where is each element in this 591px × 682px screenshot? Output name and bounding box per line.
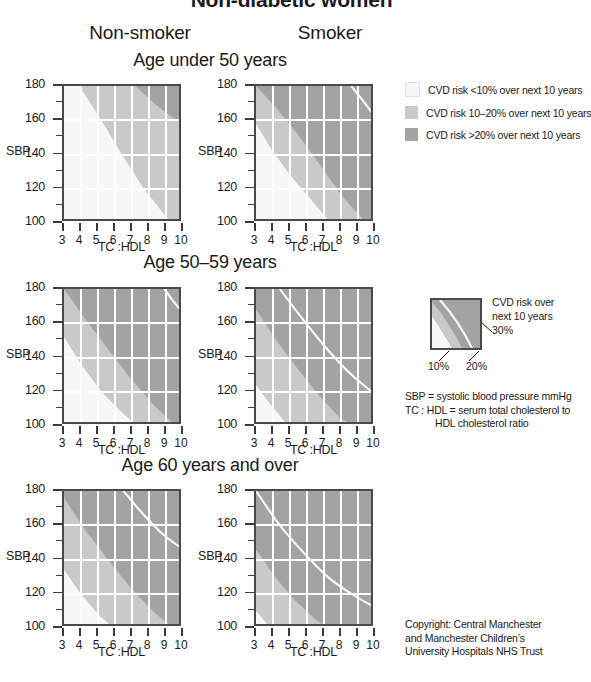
- y-tick-160: [53, 523, 62, 525]
- y-tick-140: [53, 558, 62, 560]
- y-tick-label-160: 160: [25, 111, 45, 125]
- x-axis-title-smoker-under50: TC :HDL: [254, 240, 373, 254]
- legend-swatch-mid: [405, 106, 418, 119]
- column-header-smoker: Smoker: [235, 22, 425, 44]
- x-tick-6: [113, 628, 115, 636]
- risk-legend: CVD risk <10% over next 10 years CVD ris…: [405, 82, 583, 150]
- x-axis-title-smoker-60plus: TC :HDL: [254, 645, 373, 659]
- y-tick-120: [245, 390, 254, 392]
- x-tick-5: [288, 223, 290, 231]
- mini-key-line1: CVD risk over: [492, 296, 554, 310]
- x-tick-7: [130, 426, 132, 434]
- y-tick-150: [56, 338, 62, 339]
- y-tick-110: [248, 407, 254, 408]
- chart-smoker-50-59: 100120140160180SBP345678910TC :HDL: [200, 283, 390, 458]
- y-tick-110: [248, 609, 254, 610]
- x-tick-7: [130, 223, 132, 231]
- gridline-v-8: [148, 86, 150, 219]
- y-tick-180: [53, 84, 62, 86]
- contour-30-percent: [256, 491, 373, 626]
- y-tick-130: [248, 170, 254, 171]
- x-tick-4: [271, 223, 273, 231]
- x-tick-9: [164, 628, 166, 636]
- y-tick-label-160: 160: [25, 314, 45, 328]
- plot-area-smoker-50-59: [254, 287, 373, 424]
- x-tick-8: [339, 223, 341, 231]
- definition-tchdl: TC : HDL = serum total cholesterol to: [405, 404, 583, 418]
- x-tick-4: [271, 628, 273, 636]
- y-tick-110: [248, 204, 254, 205]
- x-axis-nonsmoker-under50: 345678910: [62, 223, 181, 235]
- gridline-v-6: [114, 86, 116, 219]
- y-tick-label-180: 180: [217, 77, 237, 91]
- y-tick-140: [53, 153, 62, 155]
- chart-smoker-under50: 100120140160180SBP345678910TC :HDL: [200, 80, 390, 255]
- chart-nonsmoker-60plus: 100120140160180SBP345678910TC :HDL: [8, 485, 198, 660]
- y-axis-title-smoker-50-59: SBP: [198, 347, 222, 361]
- x-tick-9: [164, 426, 166, 434]
- x-tick-10: [373, 628, 375, 636]
- mini-key-graphic: [432, 300, 480, 348]
- y-tick-label-120: 120: [25, 585, 45, 599]
- x-tick-8: [147, 223, 149, 231]
- contour-30-percent: [256, 289, 373, 424]
- y-tick-170: [248, 101, 254, 102]
- y-tick-100: [245, 626, 254, 628]
- x-tick-9: [356, 628, 358, 636]
- x-axis-title-smoker-50-59: TC :HDL: [254, 443, 373, 457]
- y-axis-nonsmoker-50-59: 100120140160180: [48, 287, 62, 424]
- x-tick-5: [288, 628, 290, 636]
- y-tick-160: [245, 118, 254, 120]
- y-tick-160: [245, 321, 254, 323]
- y-tick-label-160: 160: [217, 516, 237, 530]
- x-tick-5: [288, 426, 290, 434]
- y-tick-label-160: 160: [25, 516, 45, 530]
- age-group-header-60-plus: Age 60 years and over: [0, 455, 420, 476]
- x-axis-nonsmoker-50-59: 345678910: [62, 426, 181, 438]
- gridline-v-4: [80, 86, 82, 219]
- x-axis-smoker-under50: 345678910: [254, 223, 373, 235]
- x-tick-9: [356, 223, 358, 231]
- pointer-20-icon: [468, 350, 482, 363]
- mini-key-label-30: 30%: [492, 324, 513, 336]
- mini-key-line2: next 10 years: [492, 310, 554, 324]
- age-group-header-50-59: Age 50–59 years: [0, 252, 420, 273]
- y-tick-label-120: 120: [217, 383, 237, 397]
- x-axis-title-nonsmoker-under50: TC :HDL: [62, 240, 181, 254]
- x-tick-10: [181, 628, 183, 636]
- y-tick-140: [53, 356, 62, 358]
- y-tick-130: [56, 575, 62, 576]
- plot-area-nonsmoker-60plus: [62, 489, 181, 626]
- page-title: Non-diabetic women: [0, 0, 583, 12]
- y-tick-label-100: 100: [25, 619, 45, 633]
- x-tick-10: [181, 223, 183, 231]
- gridline-v-7: [131, 86, 133, 219]
- legend-swatch-low: [405, 82, 420, 97]
- x-tick-10: [373, 426, 375, 434]
- x-axis-nonsmoker-60plus: 345678910: [62, 628, 181, 640]
- legend-label-mid: CVD risk 10–20% over next 10 years: [426, 107, 591, 119]
- y-tick-140: [245, 558, 254, 560]
- y-tick-150: [56, 540, 62, 541]
- x-tick-4: [79, 426, 81, 434]
- y-axis-smoker-50-59: 100120140160180: [240, 287, 254, 424]
- y-tick-100: [53, 221, 62, 223]
- y-tick-160: [245, 523, 254, 525]
- x-tick-3: [62, 426, 64, 434]
- copyright-line2: and Manchester Children’s: [405, 632, 583, 646]
- pointer-10-icon: [438, 350, 452, 363]
- x-axis-smoker-50-59: 345678910: [254, 426, 373, 438]
- y-tick-label-160: 160: [217, 314, 237, 328]
- y-axis-nonsmoker-under50: 100120140160180: [48, 84, 62, 221]
- y-tick-180: [245, 84, 254, 86]
- y-tick-label-180: 180: [217, 482, 237, 496]
- x-tick-8: [339, 426, 341, 434]
- y-tick-130: [248, 373, 254, 374]
- x-tick-10: [181, 426, 183, 434]
- chart-smoker-60plus: 100120140160180SBP345678910TC :HDL: [200, 485, 390, 660]
- plot-area-smoker-under50: [254, 84, 373, 221]
- x-tick-5: [96, 426, 98, 434]
- x-tick-7: [322, 223, 324, 231]
- x-tick-8: [147, 426, 149, 434]
- x-tick-3: [254, 426, 256, 434]
